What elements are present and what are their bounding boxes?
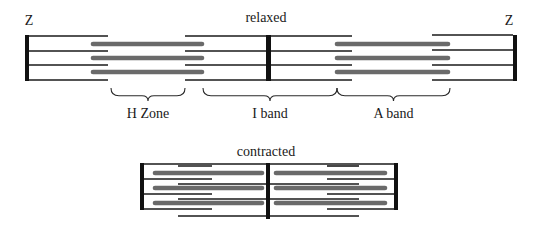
i-band-label: I band [252, 106, 287, 121]
z-line [25, 35, 29, 81]
sarcomere-svg: relaxed ZZ H ZoneI bandA band contracted [0, 0, 537, 234]
contracted-title: contracted [237, 144, 295, 159]
sarcomere-diagram: relaxed ZZ H ZoneI bandA band contracted [0, 0, 537, 234]
relaxed-title: relaxed [245, 10, 286, 25]
h-zone-label: H Zone [127, 106, 169, 121]
a-band-brace: A band [337, 88, 450, 121]
contracted-sarcomere: contracted [140, 144, 398, 219]
z-line [513, 35, 517, 81]
z-line [394, 163, 398, 210]
relaxed-sarcomere: relaxed ZZ H ZoneI bandA band [25, 10, 517, 121]
z-label: Z [505, 13, 514, 28]
brace-icon [203, 88, 337, 101]
band-braces: H ZoneI bandA band [111, 88, 450, 121]
brace-icon [111, 88, 185, 101]
z-line [266, 35, 271, 81]
h-zone-brace: H Zone [111, 88, 185, 121]
z-line [266, 163, 270, 219]
z-line [140, 163, 144, 210]
a-band-label: A band [373, 106, 413, 121]
z-label: Z [25, 13, 34, 28]
brace-icon [337, 88, 450, 101]
i-band-brace: I band [203, 88, 337, 121]
